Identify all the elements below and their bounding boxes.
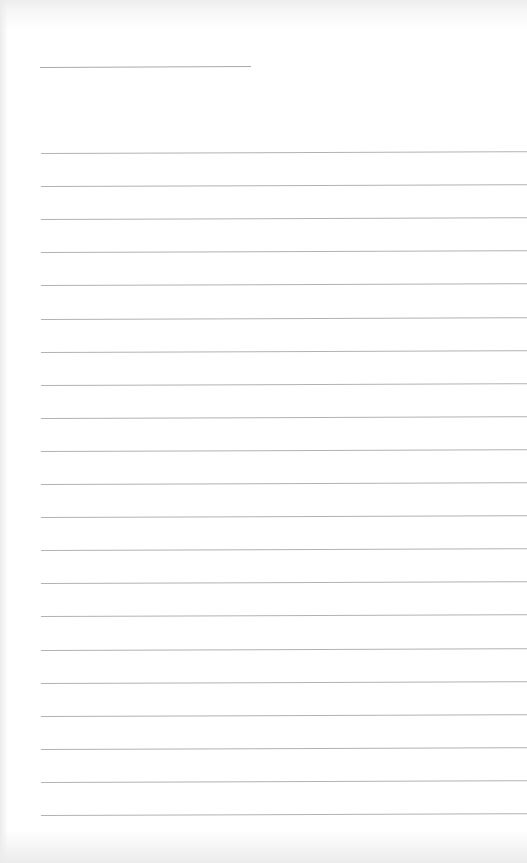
ruled-line (41, 681, 527, 684)
ruled-line (41, 614, 527, 617)
ruled-line (41, 151, 527, 154)
ruled-line (41, 283, 527, 286)
ruled-line (41, 416, 527, 419)
ruled-line (41, 648, 527, 651)
ruled-line (41, 548, 527, 551)
ruled-line (41, 217, 527, 220)
ruled-line (41, 317, 527, 320)
ruled-line (41, 350, 527, 353)
ruled-line (41, 383, 527, 386)
ruled-line (41, 747, 527, 750)
ruled-line (41, 780, 527, 783)
paper-edge-shadow (0, 0, 8, 863)
ruled-line (41, 813, 527, 816)
ruled-line (41, 250, 527, 253)
ruled-line (41, 714, 527, 717)
ruled-line (41, 515, 527, 518)
ruled-line (41, 184, 527, 187)
ruled-line (41, 449, 527, 452)
lined-paper-page (0, 0, 527, 863)
ruled-line (41, 581, 527, 584)
ruled-line (41, 482, 527, 485)
title-line (40, 66, 251, 68)
